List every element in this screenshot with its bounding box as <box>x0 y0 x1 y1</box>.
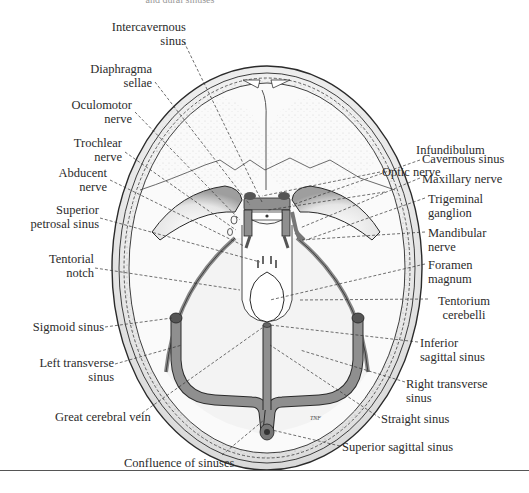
label-sigmoid-sinus: Sigmoid sinus <box>0 320 104 334</box>
label-superior-sagittal-sinus: Superior sagittal sinus <box>342 440 453 454</box>
label-diaphragma-sellae: Diaphragma sellae <box>60 62 152 90</box>
label-cavernous-sinus: Cavernous sinus <box>422 152 504 166</box>
label-right-transverse-sinus: Right transverse sinus <box>406 377 488 405</box>
label-foramen-magnum: Foramen magnum <box>428 258 472 286</box>
label-mandibular-nerve: Mandibular nerve <box>428 226 486 254</box>
label-confluence-of-sinuses: Confluence of sinuses <box>124 456 234 470</box>
label-tentorial-notch: Tentorial notch <box>0 252 94 280</box>
label-straight-sinus: Straight sinus <box>381 412 449 426</box>
label-abducent-nerve: Abducent nerve <box>15 166 107 194</box>
caption-fragment: and dural sinuses <box>130 0 230 5</box>
label-intercavernous-sinus: Intercavernous sinus <box>100 20 186 48</box>
label-left-transverse-sinus: Left transverse sinus <box>0 356 114 384</box>
label-great-cerebral-vein: Great cerebral vein <box>55 410 151 424</box>
artist-signature: TNF <box>310 415 321 421</box>
label-oculomotor-nerve: Oculomotor nerve <box>40 98 132 126</box>
label-maxillary-nerve: Maxillary nerve <box>422 172 502 186</box>
label-superior-petrosal-sinus: Superior petrosal sinus <box>5 203 99 231</box>
label-trochlear-nerve: Trochlear nerve <box>30 136 122 164</box>
label-trigeminal-ganglion: Trigeminal ganglion <box>428 192 483 220</box>
label-tentorium-cerebelli: Tentorium cerebelli <box>424 294 504 322</box>
label-inferior-sagittal-sinus: Inferior sagittal sinus <box>420 336 485 364</box>
bottom-rule <box>0 470 529 471</box>
